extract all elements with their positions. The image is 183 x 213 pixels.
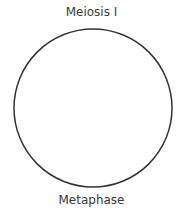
cell-outline [14,29,172,187]
phase-caption: Metaphase [0,193,183,207]
cell-diagram [0,0,183,213]
